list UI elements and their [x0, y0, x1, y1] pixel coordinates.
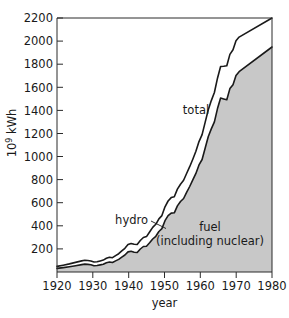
- annotation-fuel-line1: fuel: [199, 220, 221, 234]
- y-tick-label: 1600: [24, 81, 53, 95]
- y-tick-label: 1000: [24, 150, 53, 164]
- y-axis-title-base: 10: [5, 143, 19, 158]
- x-tick-label: 1920: [42, 279, 71, 293]
- y-tick-label: 800: [31, 173, 53, 187]
- y-axis-title: 109 kWh: [5, 109, 19, 158]
- svg-text:109 kWh: 109 kWh: [5, 109, 19, 158]
- y-tick-label: 1400: [24, 104, 53, 118]
- y-tick-label: 2000: [24, 34, 53, 48]
- x-axis-title: year: [152, 296, 178, 310]
- energy-production-chart: 2200 2000 1800 1600 1400 1200 1000 800 6…: [0, 0, 289, 318]
- annotation-hydro: hydro: [115, 213, 148, 227]
- x-tick-label: 1930: [78, 279, 107, 293]
- y-tick-label: 1800: [24, 57, 53, 71]
- y-axis-title-unit: kWh: [5, 109, 19, 138]
- x-axis-tick-labels: 1920 1930 1940 1950 1960 1970 1980: [42, 279, 286, 293]
- y-tick-label: 2200: [24, 11, 53, 25]
- x-tick-label: 1950: [150, 279, 179, 293]
- y-tick-label: 200: [31, 242, 53, 256]
- chart-figure: 2200 2000 1800 1600 1400 1200 1000 800 6…: [0, 0, 289, 318]
- x-tick-label: 1960: [186, 279, 215, 293]
- x-tick-label: 1980: [257, 279, 286, 293]
- annotation-total: total: [183, 103, 209, 117]
- y-tick-label: 400: [31, 219, 53, 233]
- x-tick-label: 1940: [114, 279, 143, 293]
- x-tick-label: 1970: [222, 279, 251, 293]
- annotation-fuel-line2: (including nuclear): [156, 234, 264, 248]
- y-tick-label: 600: [31, 196, 53, 210]
- y-tick-label: 1200: [24, 127, 53, 141]
